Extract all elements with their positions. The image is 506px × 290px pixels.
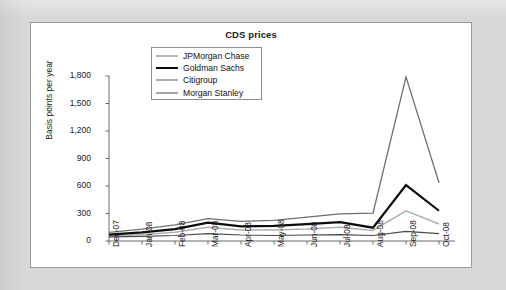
- y-axis-tick-label: 1,800: [51, 71, 91, 80]
- chart-panel: CDS prices Basis points per year 0300600…: [30, 22, 472, 268]
- legend-item-jpmorgan-chase: JPMorgan Chase: [156, 50, 258, 62]
- x-axis-tick-label: Oct-08: [442, 222, 450, 247]
- legend-line-swatch-icon: [156, 63, 178, 73]
- plot-area: Basis points per year 03006009001,2001,5…: [31, 23, 473, 269]
- x-axis-tick-label: Jan-08: [145, 222, 153, 247]
- legend-item-goldman-sachs: Goldman Sachs: [156, 62, 258, 74]
- legend-line-swatch-icon: [156, 88, 178, 98]
- legend-line-swatch-icon: [156, 75, 178, 85]
- y-axis-tick-label: 1,200: [51, 126, 91, 135]
- x-axis-tick-label: Jul-08: [343, 224, 351, 247]
- x-axis-tick-label: May-08: [277, 219, 285, 247]
- x-axis-tick-label: Dec-07: [112, 220, 120, 247]
- y-axis-tick-label: 900: [51, 154, 91, 163]
- legend-line-swatch-icon: [156, 51, 178, 61]
- y-axis-tick-label: 0: [51, 236, 91, 245]
- y-axis-tick-label: 300: [51, 209, 91, 218]
- y-axis-tick-labels: 03006009001,2001,5001,800: [47, 23, 91, 269]
- x-axis-tick-label: Aug-08: [376, 220, 384, 247]
- legend-item-morgan-stanley: Morgan Stanley: [156, 87, 258, 99]
- x-axis-tick-label: Jun-08: [310, 222, 318, 247]
- chart-legend: JPMorgan Chase Goldman Sachs Citigroup M…: [151, 47, 262, 100]
- y-axis-tick-label: 600: [51, 181, 91, 190]
- legend-label: JPMorgan Chase: [183, 51, 249, 61]
- legend-label: Morgan Stanley: [183, 88, 243, 98]
- y-axis-tick-label: 1,500: [51, 99, 91, 108]
- x-axis-tick-label: Apr-08: [244, 222, 252, 247]
- legend-item-citigroup: Citigroup: [156, 74, 258, 86]
- legend-label: Goldman Sachs: [183, 63, 244, 73]
- x-axis-tick-label: Sep-08: [409, 220, 417, 247]
- x-axis-tick-label: Mar-08: [211, 221, 219, 247]
- x-axis-tick-label: Feb-08: [178, 221, 186, 247]
- legend-label: Citigroup: [183, 75, 217, 85]
